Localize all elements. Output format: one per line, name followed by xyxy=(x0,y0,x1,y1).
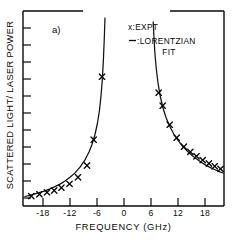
expt-marker xyxy=(29,193,34,198)
expt-marker xyxy=(181,144,186,149)
x-tick-label: -6 xyxy=(93,208,101,218)
x-tick-label: 12 xyxy=(173,208,183,218)
x-tick-label: -12 xyxy=(63,208,76,218)
expt-marker xyxy=(75,175,80,180)
expt-markers-right xyxy=(156,90,223,172)
x-axis-ticks xyxy=(43,198,205,206)
legend-fit-label-2: FIT xyxy=(128,47,224,58)
expt-marker xyxy=(84,163,89,168)
y-axis-ticks xyxy=(23,28,31,198)
lorentzian-fit-left-branch xyxy=(25,18,105,197)
expt-marker xyxy=(200,157,205,162)
x-tick-label: -18 xyxy=(36,208,49,218)
expt-marker xyxy=(174,135,179,140)
x-tick-label: 18 xyxy=(200,208,210,218)
expt-marker xyxy=(206,161,211,166)
legend-expt-label: EXPT xyxy=(135,22,158,32)
x-tick-label: 6 xyxy=(148,208,153,218)
legend-fit-label: LORENTZIAN xyxy=(140,36,196,46)
chart-legend: x:EXPT :LORENTZIAN FIT xyxy=(128,22,224,58)
expt-marker xyxy=(212,164,217,169)
expt-marker xyxy=(218,166,223,171)
expt-marker xyxy=(52,188,57,193)
panel-label: a) xyxy=(52,24,61,35)
x-axis-label: FREQUENCY (GHz) xyxy=(22,222,225,232)
expt-marker xyxy=(59,185,64,190)
legend-entry-expt: x:EXPT xyxy=(128,22,224,33)
x-tick-label: 0 xyxy=(121,208,126,218)
chart-figure: SCATTERED LIGHT/ LASER POWER xyxy=(0,0,237,240)
expt-marker xyxy=(67,181,72,186)
legend-entry-fit: :LORENTZIAN FIT xyxy=(128,36,224,58)
